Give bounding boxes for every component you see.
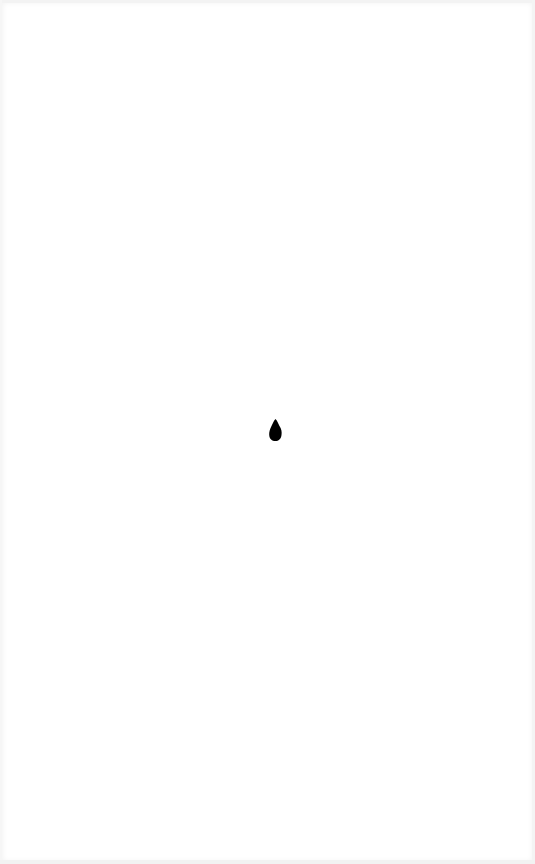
top-edge xyxy=(0,0,535,3)
bottom-edge xyxy=(0,860,535,864)
left-edge xyxy=(0,0,2,864)
blank-page xyxy=(0,0,535,864)
drop-icon xyxy=(268,418,283,442)
